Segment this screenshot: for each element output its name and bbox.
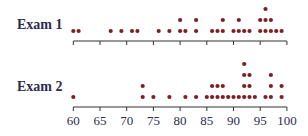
data-dot xyxy=(71,95,75,99)
data-dot xyxy=(130,29,134,33)
data-dot xyxy=(157,29,161,33)
data-dot xyxy=(263,7,267,11)
data-dot xyxy=(247,84,251,88)
data-dot xyxy=(141,84,145,88)
data-dot xyxy=(231,29,235,33)
data-dot xyxy=(237,18,241,22)
data-dot xyxy=(237,95,241,99)
data-dot xyxy=(247,95,251,99)
x-tick-label: 85 xyxy=(200,113,213,128)
data-dot xyxy=(77,29,81,33)
data-dot xyxy=(215,95,219,99)
data-dot xyxy=(215,84,219,88)
data-dot xyxy=(205,95,209,99)
exam-1-dots xyxy=(71,7,284,33)
data-dot xyxy=(109,29,113,33)
x-axis-tick-labels: 6065707580859095100 xyxy=(67,113,297,128)
data-dot xyxy=(247,73,251,77)
x-tick-label: 100 xyxy=(277,113,297,128)
data-dot xyxy=(221,18,225,22)
data-dot xyxy=(280,84,284,88)
data-dot xyxy=(194,29,198,33)
data-dot xyxy=(151,95,155,99)
x-tick-label: 65 xyxy=(94,113,107,128)
data-dot xyxy=(263,29,267,33)
data-dot xyxy=(221,29,225,33)
data-dot xyxy=(226,95,230,99)
x-tick-label: 80 xyxy=(174,113,187,128)
data-dot xyxy=(280,29,284,33)
data-dot xyxy=(263,18,267,22)
data-dot xyxy=(194,95,198,99)
data-dot xyxy=(167,95,171,99)
data-dot xyxy=(247,29,251,33)
data-dot xyxy=(194,18,198,22)
data-dot xyxy=(178,18,182,22)
data-dot xyxy=(135,29,139,33)
dot-plot: 6065707580859095100 xyxy=(0,0,308,136)
data-dot xyxy=(167,29,171,33)
data-dot xyxy=(71,29,75,33)
data-dot xyxy=(210,84,214,88)
exam-2-dots xyxy=(71,62,284,99)
data-dot xyxy=(221,95,225,99)
data-dot xyxy=(242,62,246,66)
data-dot xyxy=(231,95,235,99)
x-tick-label: 60 xyxy=(67,113,80,128)
x-tick-label: 75 xyxy=(147,113,160,128)
data-dot xyxy=(242,95,246,99)
data-dot xyxy=(263,95,267,99)
data-dot xyxy=(242,29,246,33)
exam-1-axis xyxy=(73,41,287,45)
data-dot xyxy=(258,29,262,33)
data-dot xyxy=(215,29,219,33)
x-tick-label: 95 xyxy=(254,113,267,128)
data-dot xyxy=(269,95,273,99)
data-dot xyxy=(141,95,145,99)
data-dot xyxy=(221,84,225,88)
data-dot xyxy=(242,73,246,77)
x-tick-label: 90 xyxy=(227,113,240,128)
data-dot xyxy=(210,29,214,33)
data-dot xyxy=(253,95,257,99)
exam-2-axis xyxy=(73,107,287,111)
data-dot xyxy=(183,95,187,99)
data-dot xyxy=(269,84,273,88)
data-dot xyxy=(242,84,246,88)
data-dot xyxy=(119,29,123,33)
data-dot xyxy=(258,18,262,22)
data-dot xyxy=(280,95,284,99)
data-dot xyxy=(274,29,278,33)
data-dot xyxy=(183,29,187,33)
data-dot xyxy=(237,29,241,33)
data-dot xyxy=(178,29,182,33)
data-dot xyxy=(269,73,273,77)
data-dot xyxy=(269,29,273,33)
data-dot xyxy=(210,95,214,99)
x-tick-label: 70 xyxy=(120,113,133,128)
data-dot xyxy=(269,18,273,22)
